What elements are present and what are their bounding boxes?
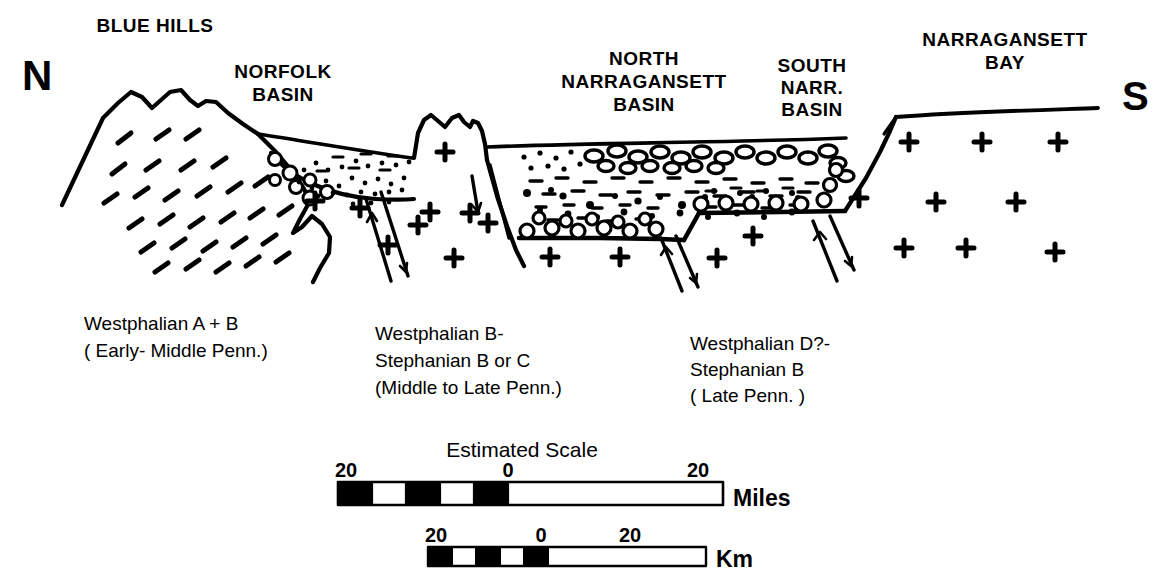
km-tick-left: 20 bbox=[425, 524, 447, 546]
scale-block: Estimated Scale 20 0 20 M bbox=[335, 438, 791, 572]
topography-outline bbox=[62, 90, 1098, 282]
caption-north-narr-line3: (Middle to Late Penn.) bbox=[375, 377, 562, 398]
age-captions: Westphalian A + B ( Early- Middle Penn.)… bbox=[84, 313, 830, 406]
miles-tick-right: 20 bbox=[687, 459, 709, 481]
caption-south-narr-line3: ( Late Penn. ) bbox=[690, 385, 805, 406]
label-north-narr-basin-line2: NARRAGANSETT bbox=[561, 71, 726, 92]
fault-south-narr-east bbox=[813, 216, 854, 281]
label-north-narr-basin-line3: BASIN bbox=[613, 94, 675, 115]
km-tick-right: 20 bbox=[619, 524, 641, 546]
fault-north-narr-east bbox=[661, 236, 698, 291]
caption-south-narr-line1: Westphalian D?- bbox=[690, 333, 830, 354]
label-south-narr-basin-line3: BASIN bbox=[781, 99, 843, 120]
caption-norfolk-line1: Westphalian A + B bbox=[84, 313, 238, 334]
scale-title: Estimated Scale bbox=[446, 438, 598, 461]
label-narragansett-bay-line2: BAY bbox=[985, 52, 1025, 73]
caption-norfolk-line2: ( Early- Middle Penn.) bbox=[84, 340, 268, 361]
label-blue-hills: BLUE HILLS bbox=[97, 15, 214, 36]
caption-south-narr-line2: Stephanian B bbox=[690, 359, 804, 380]
north-narr-basin-fill bbox=[520, 145, 854, 238]
label-norfolk-basin-line2: BASIN bbox=[252, 84, 314, 105]
label-south-narr-basin-line2: NARR. bbox=[781, 77, 844, 98]
label-norfolk-basin-line1: NORFOLK bbox=[234, 61, 331, 82]
north-label: N bbox=[22, 52, 52, 99]
miles-tick-left: 20 bbox=[335, 459, 357, 481]
km-unit-label: Km bbox=[716, 546, 753, 572]
figure-page: N S BLUE HILLS NORFOLK BASIN NORTH NARRA… bbox=[0, 0, 1167, 588]
km-scale-bar: 20 0 20 Km bbox=[425, 524, 753, 572]
label-south-narr-basin-line1: SOUTH bbox=[778, 55, 847, 76]
miles-tick-zero: 0 bbox=[502, 459, 513, 481]
caption-north-narr-line2: Stephanian B or C bbox=[375, 350, 530, 371]
south-label: S bbox=[1122, 74, 1149, 118]
section-name-labels: BLUE HILLS NORFOLK BASIN NORTH NARRAGANS… bbox=[97, 15, 1088, 120]
caption-north-narr-line1: Westphalian B- bbox=[375, 323, 504, 344]
label-north-narr-basin-line1: NORTH bbox=[609, 48, 679, 69]
cross-section-figure: N S BLUE HILLS NORFOLK BASIN NORTH NARRA… bbox=[0, 0, 1167, 588]
miles-unit-label: Miles bbox=[733, 485, 791, 511]
label-narragansett-bay-line1: NARRAGANSETT bbox=[922, 29, 1087, 50]
km-tick-zero: 0 bbox=[535, 524, 546, 546]
volcanic-dash-ornament bbox=[104, 130, 292, 272]
miles-scale-bar: 20 0 20 Miles bbox=[335, 459, 791, 511]
